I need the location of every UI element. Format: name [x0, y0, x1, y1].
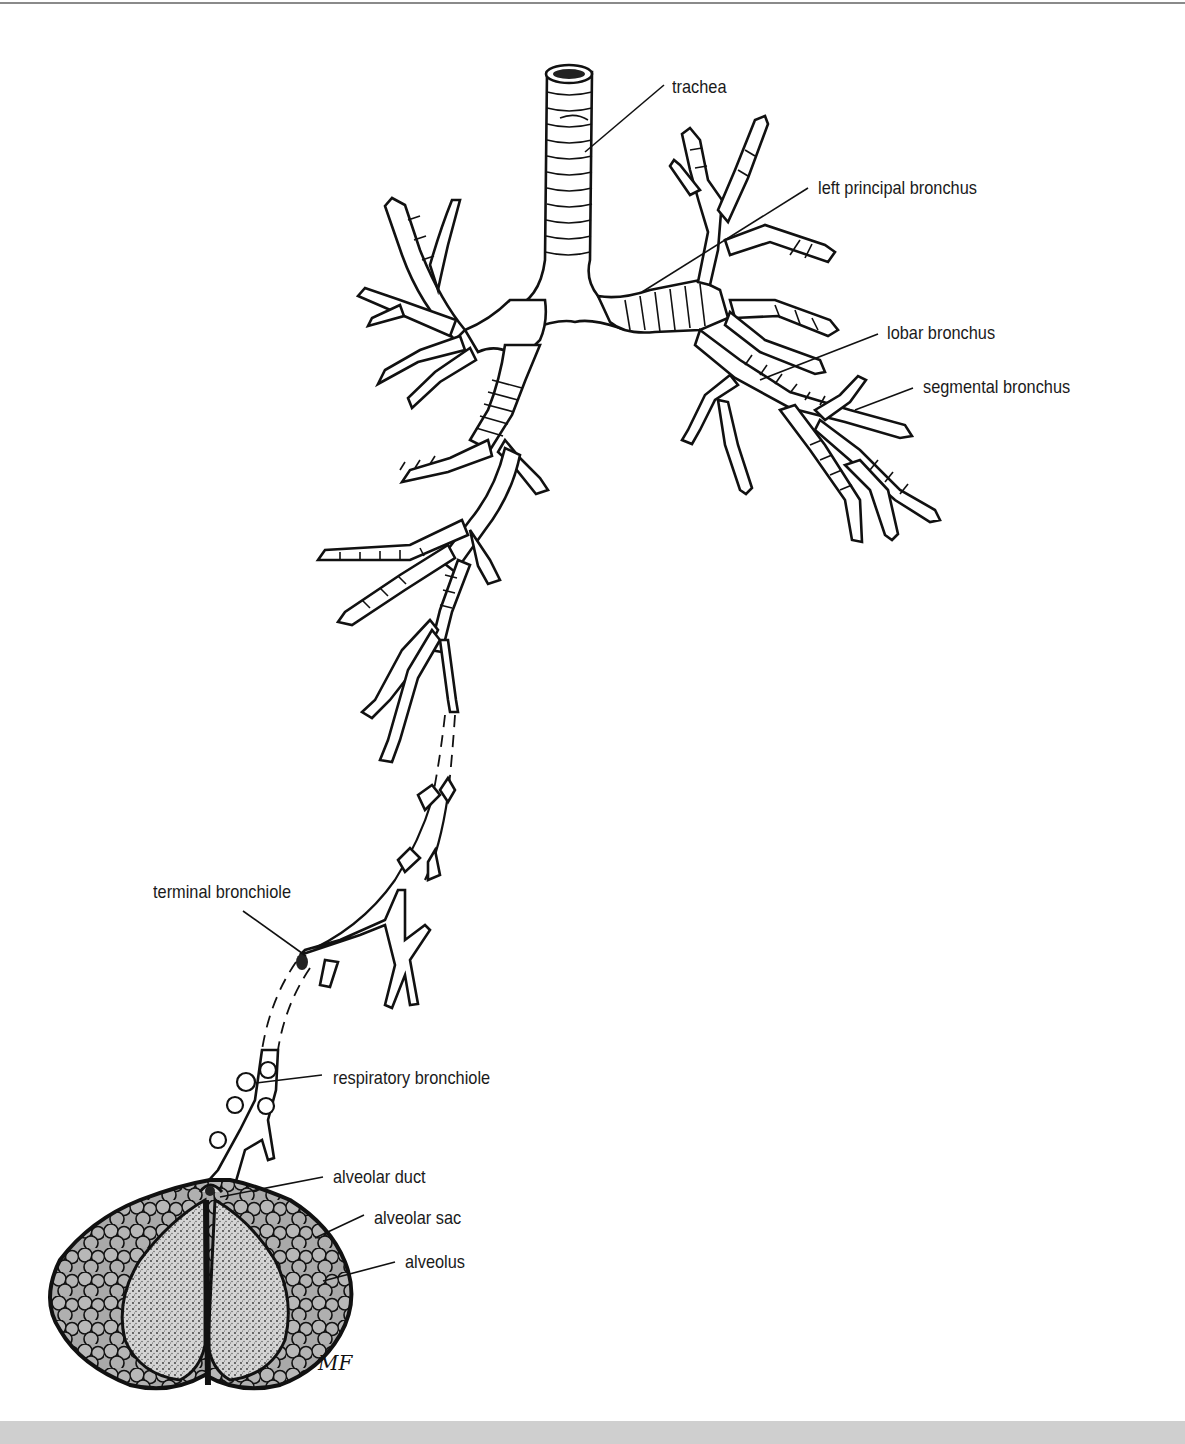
leader-terminal-bronchiole — [243, 911, 306, 956]
bottom-gray-band — [0, 1421, 1185, 1444]
label-alveolar-sac: alveolar sac — [374, 1208, 461, 1227]
trachea-drawing — [510, 65, 620, 330]
leader-trachea — [585, 85, 664, 152]
label-trachea: trachea — [672, 77, 727, 96]
respiratory-bronchiole-drawing — [200, 1050, 278, 1195]
bronchial-tree-illustration: MF — [0, 0, 1185, 1444]
alveolar-sac-drawing — [50, 1180, 351, 1388]
label-alveolus: alveolus — [405, 1252, 465, 1271]
artist-signature: MF — [317, 1351, 353, 1375]
label-left-principal-bronchus: left principal bronchus — [818, 178, 977, 197]
right-bronchus-drawing — [318, 198, 548, 762]
label-terminal-bronchiole: terminal bronchiole — [153, 882, 291, 901]
label-segmental-bronchus: segmental bronchus — [923, 377, 1070, 396]
leader-segmental-bronchus — [855, 388, 913, 410]
label-respiratory-bronchiole: respiratory bronchiole — [333, 1068, 490, 1087]
label-lobar-bronchus: lobar bronchus — [887, 323, 995, 342]
label-alveolar-duct: alveolar duct — [333, 1167, 426, 1186]
